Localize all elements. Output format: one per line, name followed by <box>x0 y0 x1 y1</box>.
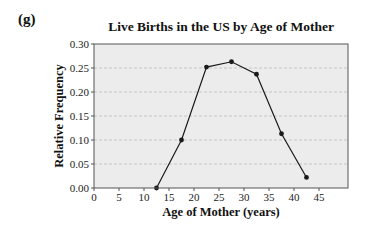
y-tick-label: 0.05 <box>70 158 90 170</box>
line-chart: 0.000.050.100.150.200.250.30 05101520253… <box>0 0 367 230</box>
x-tick-label: 20 <box>189 191 201 203</box>
x-tick-label: 40 <box>289 191 301 203</box>
data-point <box>179 138 184 143</box>
y-tick-label: 0.25 <box>70 62 90 74</box>
data-point <box>304 175 309 180</box>
x-axis: 051015202530354045 <box>91 188 325 203</box>
y-tick-label: 0.20 <box>70 86 90 98</box>
x-tick-label: 5 <box>116 191 122 203</box>
x-tick-label: 35 <box>264 191 276 203</box>
y-tick-label: 0.15 <box>70 110 90 122</box>
x-tick-label: 15 <box>164 191 176 203</box>
x-tick-label: 0 <box>91 191 97 203</box>
x-tick-label: 25 <box>214 191 226 203</box>
data-point <box>204 65 209 70</box>
data-point <box>254 72 259 77</box>
data-point <box>279 131 284 136</box>
x-tick-label: 30 <box>239 191 251 203</box>
x-tick-label: 45 <box>314 191 326 203</box>
y-tick-label: 0.30 <box>70 38 90 50</box>
y-axis: 0.000.050.100.150.200.250.30 <box>70 38 94 194</box>
y-tick-label: 0.10 <box>70 134 90 146</box>
x-tick-label: 10 <box>139 191 151 203</box>
y-tick-label: 0.00 <box>70 182 90 194</box>
data-point <box>229 59 234 64</box>
